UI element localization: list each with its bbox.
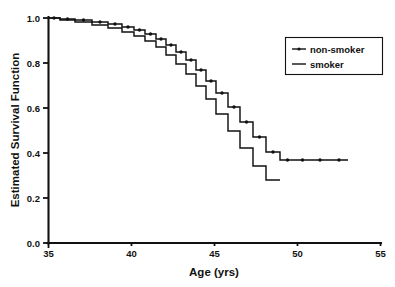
data-point-marker <box>258 135 261 138</box>
chart-legend: non-smoker smoker <box>286 38 383 75</box>
x-tick-label-35: 35 <box>43 248 54 259</box>
legend-label-smoker: smoker <box>310 59 344 70</box>
data-point-marker <box>318 158 321 161</box>
survival-chart-figure: 1.0 0.8 0.6 0.4 0.2 0.0 35 40 45 50 55 A… <box>0 0 395 287</box>
y-tick-label-0.6: 0.6 <box>27 103 40 114</box>
x-axis-title: Age (yrs) <box>189 266 239 278</box>
data-point-marker <box>169 43 172 46</box>
data-point-marker <box>149 32 152 35</box>
data-point-marker <box>126 25 129 28</box>
data-point-marker <box>159 37 162 40</box>
y-tick-label-1.0: 1.0 <box>27 13 40 24</box>
x-tick-label-45: 45 <box>209 248 220 259</box>
x-tick-label-40: 40 <box>126 248 137 259</box>
data-point-marker <box>209 79 212 82</box>
data-point-marker <box>52 16 55 19</box>
legend-marker-non-smoker <box>297 47 300 50</box>
y-axis-title: Estimated Survival Function <box>9 53 21 208</box>
y-tick-label-0.0: 0.0 <box>27 238 40 249</box>
legend-label-non-smoker: non-smoker <box>310 44 365 55</box>
data-point-marker <box>232 105 235 108</box>
y-tick-label-0.4: 0.4 <box>27 148 41 159</box>
data-point-marker <box>286 158 289 161</box>
y-tick-label-0.8: 0.8 <box>27 58 40 69</box>
chart-canvas: 1.0 0.8 0.6 0.4 0.2 0.0 35 40 45 50 55 A… <box>0 0 395 287</box>
data-point-marker <box>82 18 85 21</box>
x-tick-label-50: 50 <box>292 248 303 259</box>
data-point-marker <box>220 91 223 94</box>
data-point-marker <box>179 50 182 53</box>
smoker-survival-curve <box>48 18 280 180</box>
data-point-marker <box>301 158 304 161</box>
data-point-marker <box>271 150 274 153</box>
data-point-marker <box>199 68 202 71</box>
y-tick-label-0.2: 0.2 <box>27 193 40 204</box>
data-point-marker <box>337 158 340 161</box>
data-point-marker <box>98 20 101 23</box>
data-point-marker <box>245 120 248 123</box>
data-point-marker <box>113 22 116 25</box>
data-point-marker <box>138 28 141 31</box>
x-tick-label-55: 55 <box>375 248 386 259</box>
data-point-marker <box>189 58 192 61</box>
data-point-marker <box>66 17 69 20</box>
